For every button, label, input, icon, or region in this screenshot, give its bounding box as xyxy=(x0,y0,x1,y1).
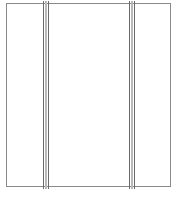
divider-line xyxy=(129,1,130,189)
outer-frame xyxy=(6,3,171,187)
left-divider xyxy=(43,1,49,189)
divider-line xyxy=(134,1,135,189)
divider-fill xyxy=(131,1,133,189)
divider-fill xyxy=(45,1,47,189)
right-divider xyxy=(129,1,135,189)
divider-line xyxy=(48,1,49,189)
divider-line xyxy=(43,1,44,189)
